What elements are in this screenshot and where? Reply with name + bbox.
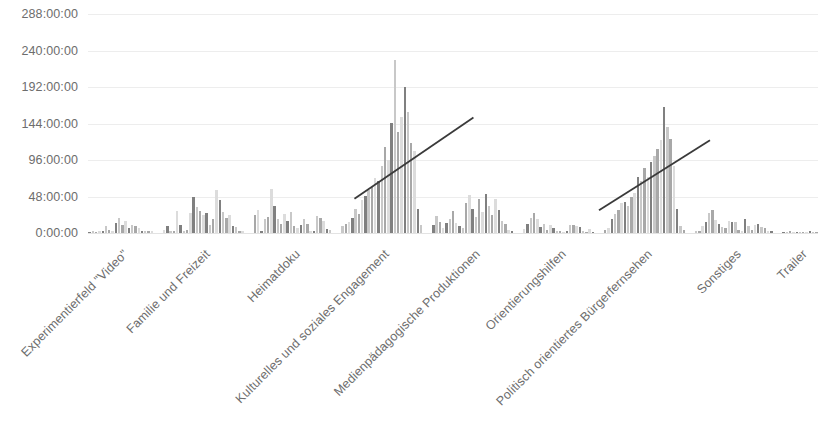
bar bbox=[199, 211, 201, 233]
bar bbox=[679, 226, 681, 233]
bar bbox=[404, 87, 406, 233]
bar bbox=[617, 210, 619, 233]
y-axis-tick-label: 144:00:00 bbox=[0, 118, 78, 130]
y-axis-tick-label: 48:00:00 bbox=[0, 191, 78, 203]
bar bbox=[367, 190, 369, 233]
bar bbox=[280, 224, 282, 233]
bar bbox=[718, 224, 720, 233]
y-axis-tick-label: 96:00:00 bbox=[0, 154, 78, 166]
bar bbox=[575, 226, 577, 233]
y-axis-tick-label: 192:00:00 bbox=[0, 81, 78, 93]
bar bbox=[341, 226, 343, 233]
bar bbox=[322, 221, 324, 233]
bar bbox=[653, 156, 655, 233]
bar bbox=[166, 226, 168, 233]
bar bbox=[488, 206, 490, 233]
bar bbox=[225, 218, 227, 233]
bar bbox=[358, 214, 360, 233]
bar bbox=[647, 177, 649, 233]
x-axis-tick-label: Trailer bbox=[775, 247, 810, 282]
bar bbox=[232, 226, 234, 233]
bar bbox=[387, 160, 389, 233]
bar bbox=[228, 215, 230, 233]
bar bbox=[475, 217, 477, 233]
bar bbox=[711, 210, 713, 233]
bar bbox=[530, 218, 532, 233]
bar bbox=[300, 225, 302, 233]
bar bbox=[731, 222, 733, 233]
bar bbox=[351, 218, 353, 233]
bar bbox=[290, 212, 292, 233]
bar bbox=[714, 220, 716, 233]
bar bbox=[115, 223, 117, 233]
bar bbox=[306, 224, 308, 233]
bar bbox=[215, 190, 217, 233]
bar bbox=[273, 206, 275, 233]
bar bbox=[627, 206, 629, 233]
bar bbox=[656, 149, 658, 233]
bar bbox=[754, 225, 756, 233]
bar bbox=[179, 225, 181, 233]
bar bbox=[465, 203, 467, 233]
bar bbox=[381, 166, 383, 233]
bar bbox=[354, 209, 356, 233]
bar bbox=[640, 181, 642, 233]
x-axis: Experimentierfeld "Video"Familie und Fre… bbox=[0, 233, 840, 444]
bar bbox=[219, 200, 221, 233]
bar bbox=[455, 223, 457, 233]
bar bbox=[650, 162, 652, 233]
bar bbox=[536, 219, 538, 233]
bar bbox=[384, 147, 386, 233]
bar bbox=[494, 199, 496, 233]
x-axis-tick-label: Heimatdoku bbox=[244, 247, 302, 305]
bar bbox=[264, 219, 266, 233]
bar bbox=[481, 212, 483, 233]
bar bbox=[445, 223, 447, 233]
bar bbox=[400, 117, 402, 233]
bar bbox=[744, 219, 746, 233]
bar bbox=[471, 209, 473, 233]
bar bbox=[303, 219, 305, 233]
bar bbox=[222, 212, 224, 233]
bar bbox=[319, 218, 321, 233]
y-axis: 0:00:0048:00:0096:00:00144:00:00192:00:0… bbox=[0, 0, 84, 248]
y-axis-tick-label: 240:00:00 bbox=[0, 45, 78, 57]
x-axis-tick-label: Kulturelles und soziales Engagement bbox=[233, 247, 392, 406]
bar bbox=[410, 143, 412, 233]
bar bbox=[549, 225, 551, 233]
bar bbox=[270, 189, 272, 233]
bar bbox=[747, 226, 749, 233]
bar bbox=[572, 225, 574, 233]
bar bbox=[432, 225, 434, 233]
bar bbox=[501, 221, 503, 233]
bar bbox=[663, 107, 665, 233]
bar bbox=[666, 127, 668, 233]
bar bbox=[468, 195, 470, 233]
bar bbox=[267, 217, 269, 233]
plot-area bbox=[88, 14, 818, 233]
bar bbox=[390, 123, 392, 233]
bar bbox=[283, 214, 285, 233]
bar bbox=[637, 177, 639, 233]
bar bbox=[452, 211, 454, 233]
bar bbox=[643, 168, 645, 233]
bar bbox=[361, 200, 363, 233]
bar bbox=[543, 224, 545, 233]
bar bbox=[498, 210, 500, 233]
bar bbox=[277, 219, 279, 233]
bar bbox=[293, 226, 295, 233]
bar bbox=[708, 213, 710, 233]
bar bbox=[257, 210, 259, 233]
bar bbox=[439, 222, 441, 233]
bar bbox=[620, 203, 622, 233]
bar bbox=[701, 226, 703, 233]
bar bbox=[624, 202, 626, 233]
bar bbox=[118, 218, 120, 233]
bar bbox=[435, 216, 437, 233]
bar-chart: 0:00:0048:00:0096:00:00144:00:00192:00:0… bbox=[0, 0, 840, 444]
bars-layer bbox=[88, 14, 818, 233]
bar bbox=[526, 224, 528, 233]
bar bbox=[417, 209, 419, 233]
bar bbox=[630, 197, 632, 234]
bar bbox=[614, 214, 616, 233]
